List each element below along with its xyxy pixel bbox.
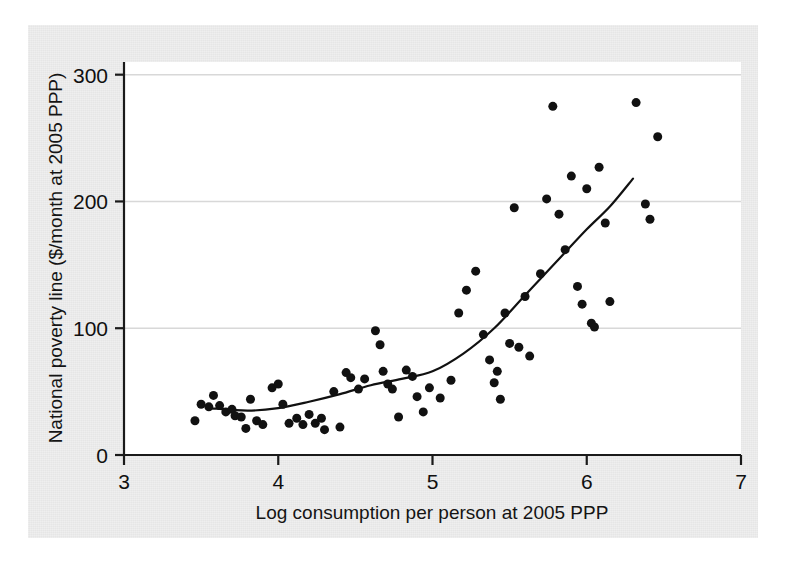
data-point (493, 367, 502, 376)
data-point (379, 367, 388, 376)
scatter-chart: 0100200300 34567 Log consumption per per… (0, 0, 789, 566)
data-point (632, 98, 641, 107)
data-point (548, 102, 557, 111)
data-point (653, 132, 662, 141)
data-point (462, 286, 471, 295)
data-point (514, 343, 523, 352)
y-axis-title: National poverty line ($/month at 2005 P… (45, 73, 66, 444)
data-point (641, 199, 650, 208)
x-tick-label: 7 (735, 470, 747, 493)
data-point (485, 355, 494, 364)
data-point (190, 416, 199, 425)
y-tick-label: 100 (73, 317, 108, 340)
data-point (501, 309, 510, 318)
x-tick-label: 5 (427, 470, 439, 493)
data-point (258, 420, 267, 429)
data-point (360, 374, 369, 383)
data-point (542, 194, 551, 203)
data-point (298, 420, 307, 429)
data-point (561, 245, 570, 254)
x-axis-ticks (124, 455, 741, 465)
data-point (595, 163, 604, 172)
data-point (274, 380, 283, 389)
data-point (525, 352, 534, 361)
x-axis-tick-labels: 34567 (118, 470, 747, 493)
data-point (471, 267, 480, 276)
figure-root: 0100200300 34567 Log consumption per per… (0, 0, 789, 566)
data-point (329, 387, 338, 396)
data-point (413, 392, 422, 401)
data-point (419, 407, 428, 416)
data-point (305, 410, 314, 419)
data-point (209, 391, 218, 400)
y-axis-ticks (115, 75, 124, 455)
y-tick-label: 200 (73, 190, 108, 213)
data-point (573, 282, 582, 291)
y-tick-label: 300 (73, 64, 108, 87)
data-point (354, 385, 363, 394)
data-point (285, 419, 294, 428)
data-point (346, 373, 355, 382)
data-point (554, 210, 563, 219)
data-point (521, 292, 530, 301)
data-point (246, 395, 255, 404)
data-point (436, 393, 445, 402)
data-point (237, 412, 246, 421)
x-tick-label: 3 (118, 470, 130, 493)
data-point (278, 400, 287, 409)
data-point (601, 219, 610, 228)
data-point (479, 330, 488, 339)
x-axis-title: Log consumption per person at 2005 PPP (256, 502, 609, 523)
data-point (408, 372, 417, 381)
data-point (241, 424, 250, 433)
data-point (425, 383, 434, 392)
data-point (510, 203, 519, 212)
data-point (204, 402, 213, 411)
x-tick-label: 4 (272, 470, 284, 493)
y-axis-tick-labels: 0100200300 (73, 64, 108, 467)
data-point (567, 172, 576, 181)
data-point (376, 340, 385, 349)
data-point (505, 339, 514, 348)
data-point (578, 300, 587, 309)
x-tick-label: 6 (581, 470, 593, 493)
data-point (388, 385, 397, 394)
data-point (335, 423, 344, 432)
data-point (371, 326, 380, 335)
data-point (490, 378, 499, 387)
data-point (447, 376, 456, 385)
data-point (582, 184, 591, 193)
data-point (394, 412, 403, 421)
data-point (605, 297, 614, 306)
data-point (536, 269, 545, 278)
data-point (496, 395, 505, 404)
data-point (197, 400, 206, 409)
data-point (645, 215, 654, 224)
data-point (317, 414, 326, 423)
data-point (454, 309, 463, 318)
data-point (320, 425, 329, 434)
y-tick-label: 0 (96, 444, 108, 467)
data-point (590, 322, 599, 331)
